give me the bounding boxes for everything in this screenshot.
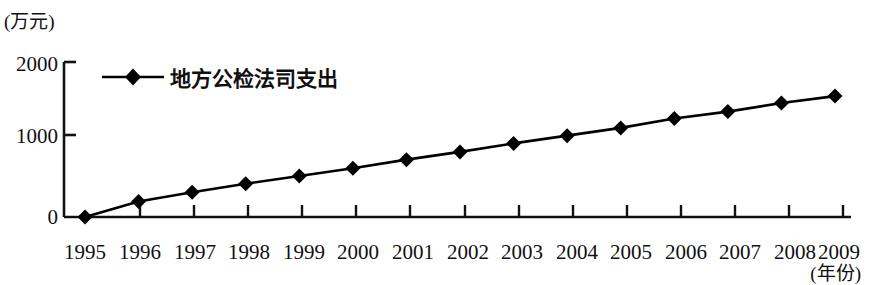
data-point-marker <box>560 128 575 143</box>
data-point-marker <box>345 161 360 176</box>
data-point-marker <box>667 111 682 126</box>
data-point-marker <box>774 96 789 111</box>
data-point-marker <box>238 176 253 191</box>
data-point-marker <box>131 194 146 209</box>
data-point-marker <box>828 89 843 104</box>
data-point-marker <box>292 168 307 183</box>
data-point-marker <box>506 136 521 151</box>
data-point-marker <box>453 144 468 159</box>
data-point-marker <box>185 185 200 200</box>
data-point-marker <box>720 104 735 119</box>
data-series-markers <box>78 89 843 225</box>
data-point-marker <box>399 152 414 167</box>
data-point-marker <box>78 210 93 225</box>
data-point-marker <box>613 120 628 135</box>
